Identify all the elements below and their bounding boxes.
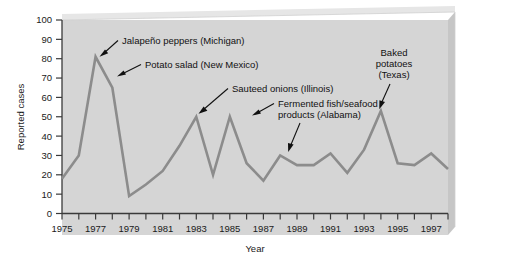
x-axis-title: Year [245,243,264,254]
x-tick-label-1979: 1979 [119,223,140,234]
annotation-baked-potatoes-line-2: (Texas) [378,69,409,80]
x-tick-label-1987: 1987 [253,223,274,234]
y-tick-label-40: 40 [41,131,52,142]
x-tick-label-1991: 1991 [320,223,341,234]
y-tick-label-60: 60 [41,92,52,103]
x-tick-label-1975: 1975 [51,223,72,234]
x-tick-label-1985: 1985 [219,223,240,234]
y-tick-label-70: 70 [41,72,52,83]
plot-panel-3d [62,6,455,235]
y-tick-label-80: 80 [41,53,52,64]
y-tick-label-30: 30 [41,150,52,161]
x-tick-label-1983: 1983 [186,223,207,234]
panel-right-bevel [448,12,455,235]
y-tick-label-10: 10 [41,189,52,200]
x-tick-label-1989: 1989 [286,223,307,234]
annotation-fermented-fish-line-0: Fermented fish/seafood [278,98,378,109]
x-tick-label-1997: 1997 [421,223,442,234]
x-tick-label-1995: 1995 [387,223,408,234]
chart-figure: 100 90 80 70 60 50 40 30 20 10 0 Reporte… [0,0,514,261]
annotation-baked-potatoes-line-1: potatoes [376,58,413,69]
y-tick-label-0: 0 [47,208,52,219]
annotation-sauteed-onions-line-0: Sauteed onions (Illinois) [232,83,333,94]
y-tick-label-100: 100 [36,14,52,25]
x-tick-label-1977: 1977 [85,223,106,234]
y-tick-label-20: 20 [41,169,52,180]
y-tick-label-50: 50 [41,111,52,122]
x-tick-label-1981: 1981 [152,223,173,234]
y-axis-title: Reported cases [15,83,26,150]
annotation-jalapeno-line-0: Jalapeño peppers (Michigan) [122,35,245,46]
y-tick-label-90: 90 [41,34,52,45]
annotation-baked-potatoes-line-0: Baked [381,47,408,58]
annotation-fermented-fish-line-1: products (Alabama) [278,109,361,120]
x-tick-label-1993: 1993 [354,223,375,234]
annotation-potato-salad-line-0: Potato salad (New Mexico) [145,59,259,70]
